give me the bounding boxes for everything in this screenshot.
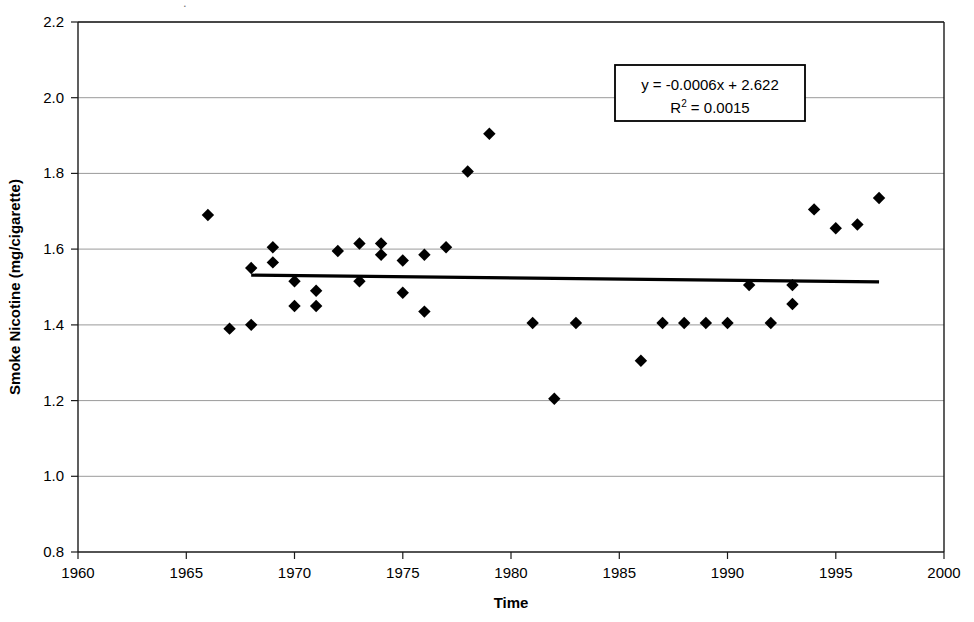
x-axis-tick-labels: 1960 1965 1970 1975 1980 1985 1990 1995 … <box>61 564 960 581</box>
plot-area: 2.2 2.0 1.8 1.6 1.4 1.2 1.0 0.8 1960 196… <box>0 0 974 622</box>
y-axis-ticks <box>71 22 78 552</box>
data-point <box>397 254 409 266</box>
y-tick-label-6: 2.0 <box>43 89 64 106</box>
data-point <box>786 298 798 310</box>
data-point <box>873 192 885 204</box>
data-point <box>375 237 387 249</box>
data-point <box>830 222 842 234</box>
data-point <box>353 237 365 249</box>
data-point <box>418 305 430 317</box>
gridlines <box>78 22 944 476</box>
data-point <box>332 245 344 257</box>
data-point <box>483 127 495 139</box>
x-tick-label-0: 1960 <box>61 564 94 581</box>
data-point <box>765 317 777 329</box>
y-tick-label-7: 2.2 <box>43 13 64 30</box>
equation-line: y = -0.0006x + 2.622 <box>641 76 779 93</box>
data-point <box>310 300 322 312</box>
axes <box>78 22 944 552</box>
equation-annotation: y = -0.0006x + 2.622 R2 = 0.0015 <box>615 65 805 121</box>
data-point <box>202 209 214 221</box>
data-point <box>245 319 257 331</box>
x-tick-label-6: 1990 <box>711 564 744 581</box>
data-point <box>288 300 300 312</box>
y-tick-label-2: 1.2 <box>43 392 64 409</box>
trendline <box>251 275 879 282</box>
data-point-group <box>202 127 886 404</box>
r-squared-symbol: R <box>670 99 681 116</box>
x-tick-label-8: 2000 <box>927 564 960 581</box>
x-tick-label-5: 1985 <box>603 564 636 581</box>
x-tick-label-2: 1970 <box>278 564 311 581</box>
y-tick-label-3: 1.4 <box>43 316 64 333</box>
data-point <box>245 262 257 274</box>
x-axis-ticks <box>78 552 944 559</box>
data-point <box>851 218 863 230</box>
y-axis-tick-labels: 2.2 2.0 1.8 1.6 1.4 1.2 1.0 0.8 <box>43 13 64 560</box>
data-point <box>678 317 690 329</box>
data-point <box>223 322 235 334</box>
data-point <box>548 392 560 404</box>
x-tick-label-4: 1980 <box>494 564 527 581</box>
x-axis-title: Time <box>494 594 529 611</box>
r-squared-value: = 0.0015 <box>687 99 750 116</box>
scatter-chart: 2.2 2.0 1.8 1.6 1.4 1.2 1.0 0.8 1960 196… <box>0 0 974 622</box>
y-tick-label-5: 1.8 <box>43 164 64 181</box>
data-point <box>656 317 668 329</box>
y-axis-title: Smoke Nicotine (mg/cigarette) <box>6 179 23 395</box>
data-point <box>397 286 409 298</box>
data-point <box>310 285 322 297</box>
y-tick-label-0: 0.8 <box>43 543 64 560</box>
data-point <box>570 317 582 329</box>
data-point <box>440 241 452 253</box>
data-point <box>267 256 279 268</box>
x-tick-label-7: 1995 <box>819 564 852 581</box>
data-point <box>721 317 733 329</box>
data-point <box>808 203 820 215</box>
x-tick-label-3: 1975 <box>386 564 419 581</box>
data-point <box>462 165 474 177</box>
y-tick-label-4: 1.6 <box>43 240 64 257</box>
data-point <box>635 355 647 367</box>
cropped-title-artifact: . <box>183 0 187 10</box>
data-point <box>700 317 712 329</box>
data-point <box>418 249 430 261</box>
data-point <box>526 317 538 329</box>
x-tick-label-1: 1965 <box>170 564 203 581</box>
data-point <box>375 249 387 261</box>
data-point <box>267 241 279 253</box>
y-tick-label-1: 1.0 <box>43 467 64 484</box>
